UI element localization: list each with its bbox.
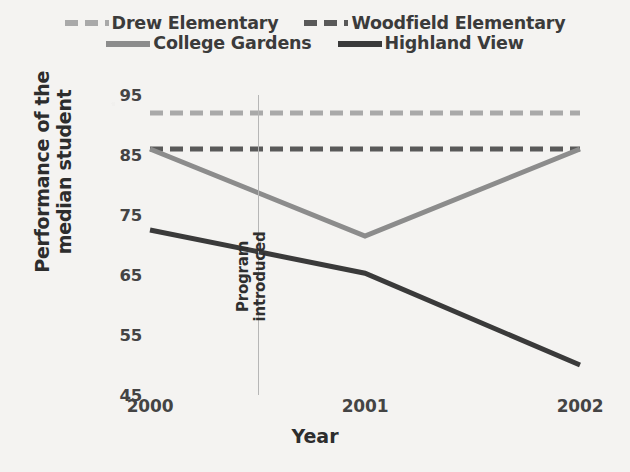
y-axis-tick-65: 65 bbox=[102, 266, 142, 285]
plot-area bbox=[150, 95, 580, 395]
y-axis-title-line-1: Performance of the bbox=[32, 22, 54, 322]
annotation-line-1: Program bbox=[234, 187, 251, 367]
legend-label-college-gardens: College Gardens bbox=[153, 34, 311, 52]
series-line-highland-view bbox=[150, 230, 580, 365]
y-axis-title: Performance of the median student bbox=[32, 22, 76, 322]
line-chart: Drew Elementary Woodfield Elementary Col… bbox=[0, 0, 630, 472]
legend-label-highland-view: Highland View bbox=[385, 34, 524, 52]
annotation-line-2: introduced bbox=[251, 187, 268, 367]
y-axis-title-line-2: median student bbox=[54, 22, 76, 322]
series-canvas bbox=[150, 95, 580, 395]
legend-label-woodfield-elementary: Woodfield Elementary bbox=[351, 14, 565, 32]
chart-legend: Drew Elementary Woodfield Elementary Col… bbox=[0, 14, 630, 53]
y-axis-tick-85: 85 bbox=[102, 146, 142, 165]
legend-item-highland-view: Highland View bbox=[338, 34, 524, 52]
legend-item-drew-elementary: Drew Elementary bbox=[65, 14, 279, 32]
legend-swatch-solid-icon bbox=[338, 41, 382, 47]
x-axis-title: Year bbox=[0, 425, 630, 447]
series-line-college-gardens bbox=[150, 149, 580, 236]
x-axis-tick-2000: 2000 bbox=[127, 396, 174, 416]
x-axis-tick-2002: 2002 bbox=[557, 396, 604, 416]
x-axis-tick-2001: 2001 bbox=[342, 396, 389, 416]
y-axis-tick-75: 75 bbox=[102, 206, 142, 225]
program-introduced-label: Program introduced bbox=[234, 187, 267, 367]
legend-item-woodfield-elementary: Woodfield Elementary bbox=[304, 14, 565, 32]
legend-swatch-dashed-icon bbox=[304, 20, 348, 26]
y-axis-tick-55: 55 bbox=[102, 326, 142, 345]
y-axis-tick-95: 95 bbox=[102, 86, 142, 105]
legend-row: College Gardens Highland View bbox=[106, 34, 523, 52]
